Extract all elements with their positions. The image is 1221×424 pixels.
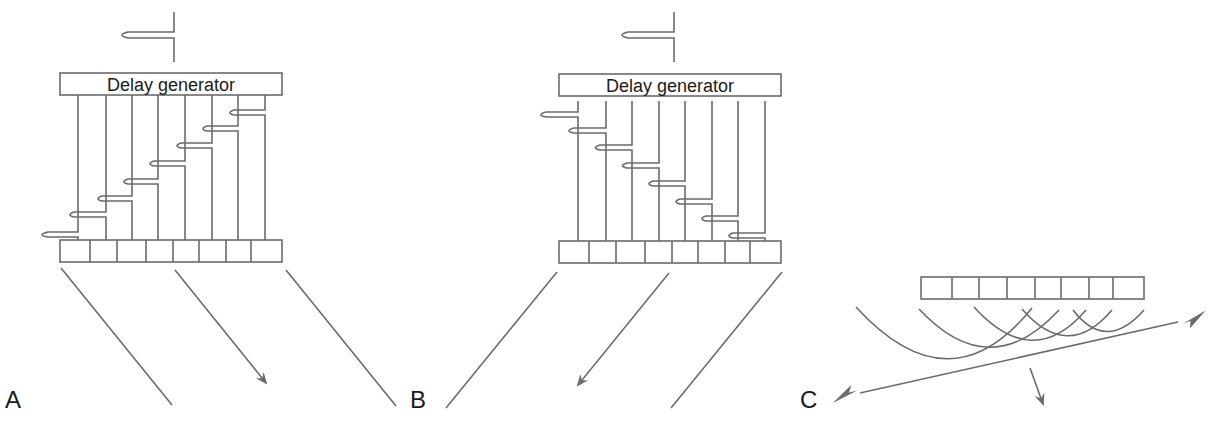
panel-a: [42, 12, 396, 406]
wavefront-line-c: [860, 322, 1178, 393]
wavefront-line-a1: [61, 268, 172, 405]
panel-b: [446, 12, 782, 408]
delayed-pulses-a: [42, 95, 265, 240]
input-pulse-a: [122, 12, 174, 62]
wavefront-arrow-a: [175, 270, 266, 383]
transducer-array-c: [921, 277, 1144, 299]
input-pulse-b: [622, 12, 674, 62]
delay-label-b: Delay generator: [606, 76, 734, 96]
figure-svg: Delay generator A Delay gener: [0, 0, 1221, 424]
panel-label-b: B: [410, 386, 426, 413]
panel-c: [830, 277, 1209, 404]
panel-label-c: C: [800, 386, 817, 413]
transducer-array-b: [559, 241, 781, 263]
delayed-pulses-b: [541, 101, 765, 241]
ultrasound-beam-steering-figure: Delay generator A Delay gener: [0, 0, 1221, 424]
arrowhead-left-c: [830, 384, 858, 403]
delay-label-a: Delay generator: [107, 75, 235, 95]
wavefront-line-b2: [671, 272, 782, 408]
wavefront-arrow-b: [578, 273, 669, 385]
panel-label-a: A: [5, 386, 21, 413]
wavefront-line-b1: [446, 272, 557, 408]
transducer-array-a: [60, 240, 282, 262]
wavelets-c: [856, 307, 1144, 359]
wavefront-line-a2: [286, 270, 396, 406]
arrowhead-right-c: [1181, 311, 1208, 330]
wavefront-arrow-c: [1030, 368, 1043, 404]
